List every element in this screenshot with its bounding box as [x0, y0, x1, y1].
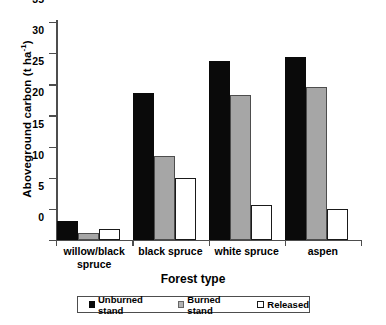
- bar-black-spruce-burned-stand: [154, 156, 175, 240]
- bar-black-spruce-released: [175, 178, 196, 240]
- plot-area: [56, 22, 361, 240]
- legend-swatch-released: [257, 301, 264, 308]
- y-tick-label: 15: [4, 118, 44, 130]
- y-tick-mark: [49, 240, 56, 241]
- y-tick-label: 10: [4, 149, 44, 161]
- bar-aspen-unburned-stand: [285, 57, 306, 240]
- bar-black-spruce-unburned-stand: [133, 93, 154, 240]
- bar-aspen-burned-stand: [306, 87, 327, 240]
- legend-item-released: Released: [257, 299, 309, 310]
- chart-figure: Aboveground carbon (t ha-1) 051015202530…: [0, 0, 386, 325]
- y-tick-label: 30: [4, 24, 44, 36]
- y-tick-mark: [49, 22, 56, 23]
- bar-aspen-released: [327, 209, 348, 240]
- bar-white-spruce-unburned-stand: [209, 61, 230, 240]
- chart-legend: Unburned stand Burned stand Released: [77, 296, 310, 313]
- bar-white-spruce-burned-stand: [230, 95, 251, 240]
- y-tick-label: 5: [4, 180, 44, 192]
- y-axis-tick-labels: 05101520253035: [0, 0, 44, 218]
- legend-swatch-unburned-stand: [89, 301, 95, 308]
- x-category-label: aspen: [275, 245, 371, 258]
- bar-white-spruce-released: [251, 205, 272, 240]
- y-tick-label: 35: [4, 0, 44, 5]
- y-tick-mark: [49, 84, 56, 85]
- y-tick-label: 0: [4, 211, 44, 223]
- y-tick-label: 20: [4, 86, 44, 98]
- legend-label-released: Released: [267, 299, 309, 310]
- legend-label-burned-stand: Burned stand: [187, 294, 236, 316]
- y-tick-mark: [49, 115, 56, 116]
- y-tick-mark: [49, 209, 56, 210]
- bar-willow-black-spruce-burned-stand: [78, 233, 99, 240]
- legend-item-unburned-stand: Unburned stand: [89, 294, 156, 316]
- x-axis-title: Forest type: [0, 272, 386, 286]
- y-tick-label: 25: [4, 55, 44, 67]
- legend-label-unburned-stand: Unburned stand: [98, 294, 156, 316]
- bar-willow-black-spruce-unburned-stand: [57, 221, 78, 240]
- y-tick-mark: [49, 178, 56, 179]
- bar-willow-black-spruce-released: [99, 229, 120, 240]
- y-tick-mark: [49, 147, 56, 148]
- legend-item-burned-stand: Burned stand: [178, 294, 236, 316]
- y-tick-mark: [49, 53, 56, 54]
- legend-swatch-burned-stand: [178, 301, 184, 308]
